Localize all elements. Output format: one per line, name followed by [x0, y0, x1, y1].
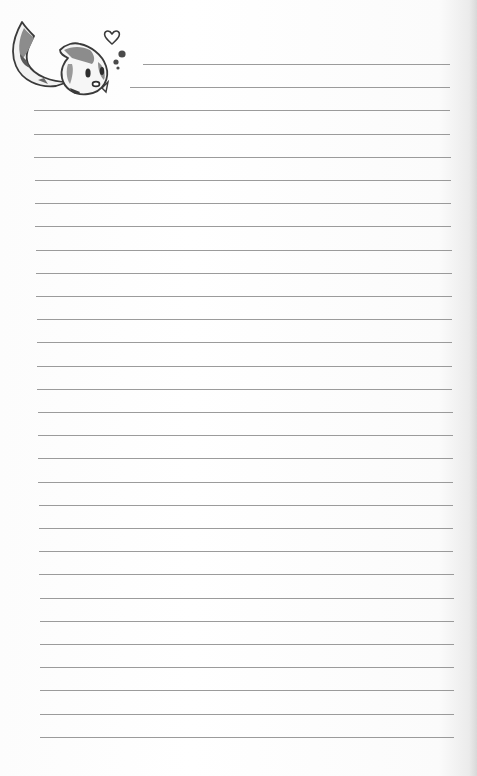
ruled-line	[39, 574, 454, 575]
ruled-line	[37, 366, 452, 367]
ruled-line	[38, 482, 453, 483]
bubble-icon	[116, 66, 119, 69]
fish-creature-illustration	[8, 18, 138, 100]
ruled-line	[38, 412, 453, 413]
heart-icon	[105, 31, 120, 44]
body-icon	[60, 43, 108, 94]
eye-right-icon	[100, 67, 104, 75]
ruled-line	[35, 203, 451, 204]
ruled-line	[34, 157, 451, 158]
bubble-icon	[113, 59, 118, 64]
ruled-line	[38, 435, 453, 436]
ruled-line	[36, 296, 452, 297]
ruled-line	[40, 598, 454, 599]
eye-left-icon	[85, 69, 90, 78]
bubble-icon	[118, 50, 125, 57]
page-edge-shadow	[469, 0, 477, 776]
ruled-line	[36, 250, 452, 251]
ruled-line	[40, 714, 454, 715]
ruled-line	[40, 737, 454, 738]
lined-paper	[0, 0, 477, 776]
ruled-line	[37, 319, 452, 320]
ruled-line	[37, 389, 452, 390]
ruled-line	[34, 110, 450, 111]
ruled-line	[39, 551, 453, 552]
ruled-line	[39, 528, 453, 529]
mouth-icon	[93, 82, 100, 87]
ruled-line	[39, 505, 453, 506]
tail-icon	[13, 22, 68, 86]
ruled-line	[40, 621, 454, 622]
ruled-line	[40, 667, 454, 668]
ruled-line	[40, 690, 454, 691]
ruled-line	[38, 458, 453, 459]
ruled-line	[36, 273, 452, 274]
ruled-line	[40, 644, 454, 645]
ruled-line	[35, 226, 451, 227]
ruled-line	[143, 64, 450, 65]
ruled-line	[130, 87, 450, 88]
ruled-line	[37, 342, 452, 343]
ruled-line	[35, 180, 451, 181]
ruled-line	[34, 134, 450, 135]
